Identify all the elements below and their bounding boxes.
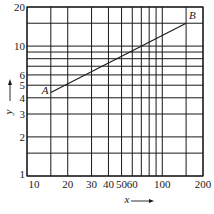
x-tick-label: 100 [154, 178, 171, 190]
y-tick-label: 10 [14, 40, 26, 52]
x-axis-label: x [124, 193, 130, 205]
x-tick-label: 40 [103, 178, 115, 190]
x-tick-labels: 102030405060100200 [29, 178, 212, 190]
x-tick-label: 20 [62, 178, 74, 190]
x-tick-label: 30 [86, 178, 98, 190]
log-log-chart: AB 102030405060100200 1234561020 x y [0, 0, 214, 214]
series-line [51, 23, 186, 92]
y-tick-label: 2 [20, 131, 26, 143]
point-label-b: B [189, 9, 196, 21]
y-tick-label: 3 [20, 108, 26, 120]
y-tick-label: 1 [20, 168, 26, 180]
y-tick-label: 5 [20, 79, 26, 91]
y-tick-label: 6 [20, 69, 26, 81]
point-label-a: A [41, 84, 49, 96]
y-axis-arrow-icon [8, 79, 12, 101]
y-tick-labels: 1234561020 [14, 1, 26, 180]
y-tick-label: 4 [20, 92, 26, 104]
y-tick-label: 20 [14, 1, 26, 13]
y-axis-label: y [2, 109, 14, 115]
x-tick-label: 200 [195, 178, 212, 190]
x-tick-label: 60 [127, 178, 139, 190]
x-tick-label: 10 [29, 178, 41, 190]
x-axis-arrow-icon [131, 199, 154, 203]
data-line-ab: AB [41, 9, 196, 96]
